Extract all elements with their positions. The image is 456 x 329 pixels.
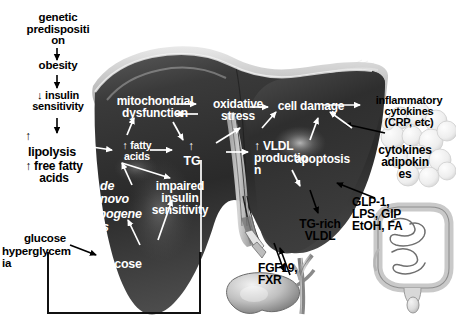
label-cytokines-adipokines: cytokines adipokin es <box>360 144 450 181</box>
figure-canvas: genetic predispositi on obesity ↓ insuli… <box>0 0 456 329</box>
label-tg-arrow: ↑ <box>182 140 200 152</box>
label-obesity: obesity <box>8 60 108 72</box>
label-lipolysis: lipolysis <box>4 146 100 159</box>
label-fgf19-fxr: FGF19, FXR <box>258 262 320 286</box>
label-free-fatty-acids: ↑ free fatty acids <box>2 160 106 184</box>
label-de-novo: de novo <box>100 180 146 206</box>
label-gut-hormones: GLP-1, LPS, GIP EtOH, FA <box>352 196 448 233</box>
label-fatty-acids-liver: ↑ fatty acids <box>110 140 164 161</box>
label-tg: TG <box>178 155 206 168</box>
label-genetic-predisposition: genetic predispositi on <box>8 12 108 47</box>
label-insulin-sensitivity: ↓ insulin sensitivity <box>6 90 110 112</box>
label-glucose-callout: glucose <box>24 233 102 245</box>
label-apoptosis: apoptosis <box>295 153 367 165</box>
label-tg-rich-vldl: TG-rich VLDL <box>288 218 352 242</box>
label-mitochondrial-dysfunction: mitochondrial dysfunction <box>100 95 210 119</box>
label-impaired-insulin-sensitivity: impaired insulin sensitivity <box>142 180 218 217</box>
label-hyperglycemia: hyperglycem ia <box>2 246 94 269</box>
label-cell-damage: cell damage <box>265 100 357 112</box>
label-lipolysis-arrow: ↑ <box>18 130 38 142</box>
label-glucose-liver: glucose <box>96 258 160 271</box>
label-inflammatory-cytokines: inflammatory cytokines (CRP, etc) <box>362 95 456 129</box>
